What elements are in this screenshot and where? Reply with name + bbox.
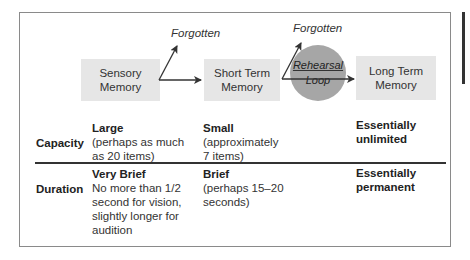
long-term-capacity-cell: Essentially unlimited: [356, 118, 416, 146]
sensory-capacity-body: (perhaps as much as 20 items): [92, 135, 184, 163]
sensory-capacity-head: Large: [92, 121, 184, 135]
forgotten-arrow-1: [159, 46, 177, 80]
short-term-capacity-cell: Small (approximately 7 items): [203, 121, 278, 163]
duration-row-label: Duration: [36, 183, 83, 195]
short-term-capacity-head: Small: [203, 121, 278, 135]
sensory-duration-body: No more than 1/2 second for vision, slig…: [92, 181, 182, 237]
short-term-capacity-body: (approximately 7 items): [203, 135, 278, 163]
short-term-duration-cell: Brief (perhaps 15–20 seconds): [203, 167, 284, 209]
capacity-row-label: Capacity: [36, 137, 84, 149]
long-term-duration-head: Essentially permanent: [356, 166, 416, 194]
short-term-duration-body: (perhaps 15–20 seconds): [203, 181, 284, 209]
sensory-duration-cell: Very Brief No more than 1/2 second for v…: [92, 167, 182, 237]
long-term-capacity-head: Essentially unlimited: [356, 118, 416, 146]
sensory-duration-head: Very Brief: [92, 167, 182, 181]
short-term-duration-head: Brief: [203, 167, 284, 181]
forgotten-arrow-2: [282, 43, 301, 79]
sensory-capacity-cell: Large (perhaps as much as 20 items): [92, 121, 184, 163]
row-separator: [35, 162, 446, 164]
long-term-duration-cell: Essentially permanent: [356, 166, 416, 194]
